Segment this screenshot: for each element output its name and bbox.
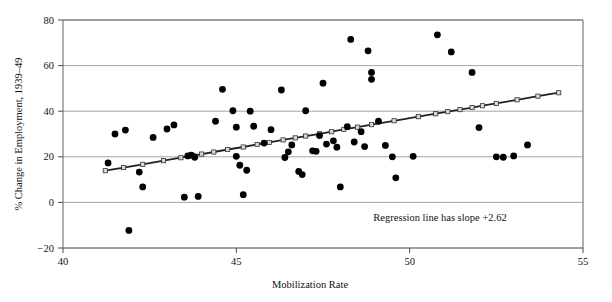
regression-line-marker [416,115,420,119]
data-point [392,174,399,181]
regression-line-marker [212,150,216,154]
data-point [524,142,531,149]
regression-line-marker [304,134,308,138]
data-point [347,36,354,43]
data-point [191,154,198,161]
regression-slope-annotation: Regression line has slope +2.62 [373,212,506,223]
regression-line-marker [200,152,204,156]
data-point [320,80,327,87]
data-point [330,137,337,144]
regression-line-marker [458,108,462,112]
regression-line-marker [281,138,285,142]
regression-line-marker [392,119,396,123]
data-point [337,184,344,191]
data-point [510,152,517,159]
data-point [313,148,320,155]
y-tick-label: 40 [44,106,55,117]
data-point [365,47,372,54]
y-tick-label: 20 [44,151,55,162]
y-axis-title: % Change in Employment, 1939–49 [13,57,24,210]
regression-line-marker [446,110,450,114]
data-point [358,128,365,135]
figure-container: −20020406080 40455055 % Change in Employ… [0,0,612,302]
data-point [112,131,119,138]
data-point [323,141,330,148]
data-point [299,171,306,178]
y-tick-label: −20 [38,243,54,254]
x-tick-label: 40 [58,256,69,267]
data-point [240,191,247,198]
data-point [434,31,441,38]
x-axis-title: Mobilization Rate [272,279,348,290]
regression-line-marker [480,104,484,108]
data-point [368,76,375,83]
data-point [229,107,236,114]
data-point [136,169,143,176]
data-point [344,123,351,130]
data-point [288,142,295,149]
data-point [333,144,340,151]
data-point [410,153,417,160]
data-point [219,86,226,93]
data-point [316,132,323,139]
chart-background [0,0,612,302]
regression-line-marker [179,156,183,160]
data-point [122,127,129,134]
data-point [476,124,483,131]
data-point [125,227,132,234]
data-point [469,69,476,76]
data-point [212,118,219,125]
data-point [268,126,275,133]
data-point [361,143,368,150]
regression-line-marker [141,162,145,166]
data-point [243,167,250,174]
data-point [493,153,500,160]
data-point [195,193,202,200]
data-point [500,154,507,161]
data-point [368,69,375,76]
data-point [448,49,455,56]
data-point [382,142,389,149]
data-point [375,118,382,125]
regression-line-marker [356,125,360,129]
x-tick-label: 45 [231,256,242,267]
regression-line-marker [494,101,498,105]
data-point [236,162,243,169]
data-point [261,140,268,147]
regression-line-marker [330,130,334,134]
regression-line-marker [161,159,165,163]
regression-line-marker [557,91,561,95]
data-point [285,148,292,155]
data-point [150,134,157,141]
y-tick-label: 0 [49,197,54,208]
regression-line-marker [103,169,107,173]
data-point [278,87,285,94]
regression-line-marker [267,140,271,144]
data-point [351,139,358,146]
data-point [181,194,188,201]
data-point [250,123,257,130]
regression-line-marker [226,147,230,151]
data-point [164,126,171,133]
data-point [105,160,112,167]
data-point [139,184,146,191]
regression-line-marker [536,94,540,98]
y-tick-label: 60 [44,60,55,71]
data-point [302,107,309,114]
scatter-chart: −20020406080 40455055 % Change in Employ… [0,0,612,302]
x-tick-label: 55 [578,256,589,267]
data-point [281,154,288,161]
data-point [233,124,240,131]
regression-line-marker [255,142,259,146]
data-point [389,153,396,160]
regression-line-marker [515,98,519,102]
data-point [171,121,178,128]
regression-line-marker [293,136,297,140]
y-tick-label: 80 [44,15,55,26]
regression-line-marker [434,112,438,116]
regression-line-marker [369,123,373,127]
regression-line-marker [470,105,474,109]
data-point [247,108,254,115]
x-tick-label: 50 [404,256,415,267]
regression-line-marker [241,145,245,149]
